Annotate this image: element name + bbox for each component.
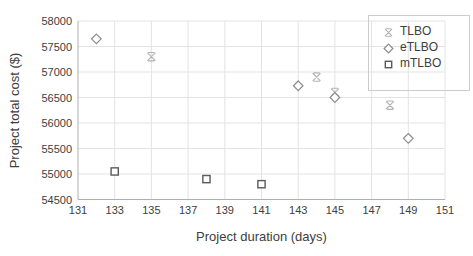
diamond-marker-icon (330, 93, 340, 103)
x-tick-label: 145 (326, 204, 344, 216)
y-tick-label: 56000 (41, 117, 72, 129)
y-tick-label: 58000 (41, 15, 72, 27)
x-tick-label: 151 (436, 204, 454, 216)
square-marker-icon (111, 168, 118, 175)
x-tick-label: 147 (362, 204, 380, 216)
square-marker-icon (382, 57, 395, 70)
y-tick-label: 54500 (41, 194, 72, 206)
scatter-chart-figure: Project total cost ($) 54500550005550056… (0, 0, 473, 256)
diamond-marker-icon (384, 44, 393, 53)
series-eTLBO (92, 34, 414, 143)
x-tick-label: 135 (142, 204, 160, 216)
x-tick-label: 149 (399, 204, 417, 216)
x-marker-icon (382, 25, 395, 38)
series-TLBO (148, 53, 394, 110)
diamond-marker-icon (382, 41, 395, 54)
x-axis-title: Project duration (days) (78, 229, 445, 244)
x-tick-label: 131 (69, 204, 87, 216)
y-tick-label: 55000 (41, 168, 72, 180)
legend-entry-mtlbo: mTLBO (382, 55, 469, 71)
y-tick-label: 57500 (41, 41, 72, 53)
legend-label-mtlbo: mTLBO (400, 55, 441, 71)
x-tick-label: 137 (179, 204, 197, 216)
diamond-marker-icon (92, 34, 102, 44)
x-marker-icon (385, 28, 391, 36)
square-marker-icon (258, 181, 265, 188)
x-marker-icon (386, 101, 393, 109)
square-marker-icon (385, 61, 391, 67)
diamond-marker-icon (293, 81, 303, 91)
legend-entry-etlbo: eTLBO (382, 39, 469, 55)
square-marker-icon (203, 176, 210, 183)
legend-label-tlbo: TLBO (400, 23, 431, 39)
legend-entry-tlbo: TLBO (382, 23, 469, 39)
y-tick-label: 57000 (41, 66, 72, 78)
legend-label-etlbo: eTLBO (400, 39, 438, 55)
y-tick-label: 56500 (41, 92, 72, 104)
x-tick-label: 141 (252, 204, 270, 216)
y-tick-label: 55500 (41, 143, 72, 155)
x-tick-label: 133 (106, 204, 124, 216)
x-tick-label: 143 (289, 204, 307, 216)
legend: TLBO eTLBO mTLBO (368, 15, 470, 91)
diamond-marker-icon (404, 134, 414, 144)
x-tick-label: 139 (216, 204, 234, 216)
x-marker-icon (313, 73, 320, 81)
